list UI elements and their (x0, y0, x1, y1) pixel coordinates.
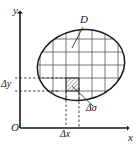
origin-label: O (11, 122, 19, 133)
delta-x-label: Δx (60, 129, 70, 139)
y-axis-label: y (13, 5, 18, 16)
x-axis-label: x (128, 132, 133, 143)
region-label: D (80, 14, 88, 25)
delta-sigma-label: Δσ (86, 103, 97, 113)
figure-canvas: y x O D Δy Δx Δσ (0, 0, 136, 151)
delta-y-label: Δy (1, 79, 11, 89)
region-grid (30, 20, 132, 112)
delta-x-guides (66, 88, 79, 128)
delta-sigma-cell (66, 78, 79, 91)
